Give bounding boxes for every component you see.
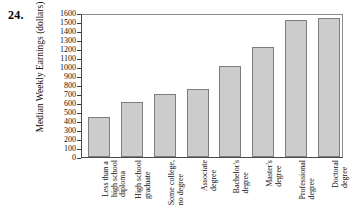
plot-area xyxy=(81,14,343,158)
bar xyxy=(219,66,241,157)
bar xyxy=(121,102,143,157)
bar xyxy=(252,47,274,157)
x-tick-label: Bachelor'sdegree xyxy=(233,160,250,193)
y-tick-label: 1400 xyxy=(52,28,76,36)
problem-number: 24. xyxy=(8,8,24,23)
x-tick-label: Some college,no degree xyxy=(168,160,185,205)
y-tick-label: 800 xyxy=(52,82,76,90)
x-tick-label: Less than ahigh schooldiploma xyxy=(102,160,128,197)
x-tick-label-line: Doctoral xyxy=(332,160,341,188)
y-tick-label: 400 xyxy=(52,118,76,126)
x-tick-label-line: degree xyxy=(209,160,218,191)
x-tick-label-line: degree xyxy=(242,160,251,193)
y-tick-label: 900 xyxy=(52,73,76,81)
y-tick-label: 500 xyxy=(52,109,76,117)
y-tick-label: 1000 xyxy=(52,64,76,72)
y-tick-label: 1300 xyxy=(52,37,76,45)
x-tick-label-line: degree xyxy=(275,160,284,187)
y-axis-title: Median Weekly Earnings (dollars) xyxy=(35,0,45,142)
x-tick-label: Master'sdegree xyxy=(266,160,283,187)
x-tick-label-line: degree xyxy=(340,160,349,188)
x-tick-label-line: graduate xyxy=(144,160,153,199)
y-tick-label: 300 xyxy=(52,127,76,135)
x-tick-label-line: diploma xyxy=(120,160,129,197)
bar-series xyxy=(82,15,342,157)
y-tick-label: 700 xyxy=(52,91,76,99)
y-tick-label: 1600 xyxy=(52,10,76,18)
x-tick-label: Doctoraldegree xyxy=(332,160,349,188)
x-tick-label-line: no degree xyxy=(176,160,185,205)
x-tick-label: High schoolgraduate xyxy=(135,160,152,199)
x-tick-label: Associatedegree xyxy=(201,160,218,191)
y-tick-label: 200 xyxy=(52,136,76,144)
y-tick-label: 600 xyxy=(52,100,76,108)
x-axis-category-labels: Less than ahigh schooldiplomaHigh school… xyxy=(81,160,343,224)
bar xyxy=(154,94,176,157)
y-tick-label: 100 xyxy=(52,145,76,153)
x-tick-label: Professionaldegree xyxy=(299,160,316,200)
bar xyxy=(318,18,340,158)
x-tick-label-line: degree xyxy=(307,160,316,200)
y-axis-tick-labels: 1600150014001300120011001000900800700600… xyxy=(52,10,76,162)
figure-panel: 24. Median Weekly Earnings (dollars) 160… xyxy=(0,0,353,224)
y-tick-label: 0 xyxy=(52,154,76,162)
x-tick-label-line: Associate xyxy=(201,160,210,191)
y-tick-mark xyxy=(77,158,81,159)
bar xyxy=(187,89,209,157)
bar xyxy=(285,20,307,157)
bar xyxy=(88,117,110,158)
y-tick-label: 1500 xyxy=(52,19,76,27)
y-tick-label: 1100 xyxy=(52,55,76,63)
y-tick-label: 1200 xyxy=(52,46,76,54)
